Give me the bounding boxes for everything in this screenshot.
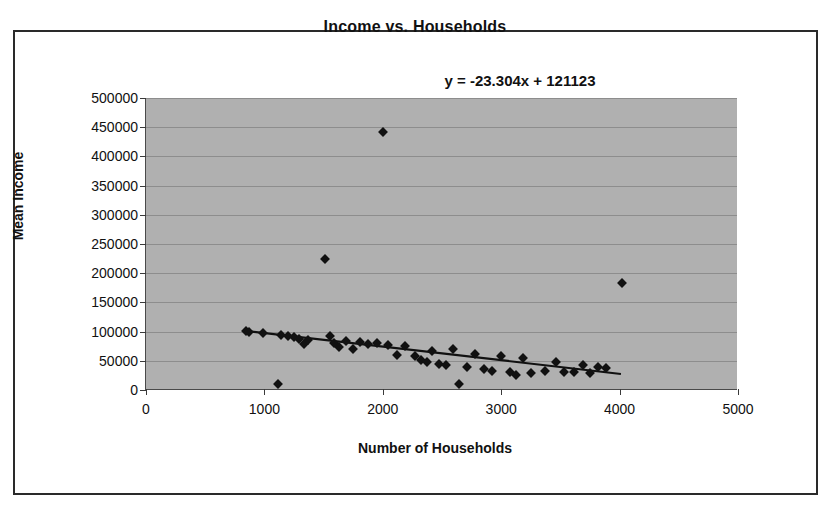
scatter-point xyxy=(487,366,497,376)
scatter-point xyxy=(479,364,489,374)
scatter-point xyxy=(601,363,611,373)
scatter-point xyxy=(578,360,588,370)
scatter-point xyxy=(383,340,393,350)
x-axis-title: Number of Households xyxy=(145,440,725,456)
y-tick-label: 100000 xyxy=(91,324,138,340)
y-tick-label: 0 xyxy=(130,382,138,398)
x-tick-label: 5000 xyxy=(722,401,753,417)
scatter-point xyxy=(372,338,382,348)
scatter-point xyxy=(341,336,351,346)
y-tick-label: 50000 xyxy=(99,353,138,369)
scatter-point xyxy=(401,341,411,351)
scatter-point xyxy=(454,379,464,389)
y-tick-label: 450000 xyxy=(91,119,138,135)
y-tick-label: 150000 xyxy=(91,294,138,310)
y-tick-label: 350000 xyxy=(91,178,138,194)
plot-wrap: 0500001000001500002000002500003000003500… xyxy=(145,98,737,390)
x-tick-mark xyxy=(738,389,739,395)
scatter-point xyxy=(427,347,437,357)
scatter-point xyxy=(462,362,472,372)
scatter-point xyxy=(585,368,595,378)
chart-title: Income vs. Households xyxy=(0,18,830,36)
scatter-point xyxy=(496,351,506,361)
scatter-point xyxy=(540,366,550,376)
scatter-point xyxy=(551,357,561,367)
scatter-point xyxy=(526,368,536,378)
x-tick-label: 1000 xyxy=(249,401,280,417)
y-tick-label: 500000 xyxy=(91,90,138,106)
scatter-point xyxy=(363,339,373,349)
scatter-point xyxy=(320,254,330,264)
x-tick-label: 4000 xyxy=(604,401,635,417)
scatter-point xyxy=(273,379,283,389)
scatter-point xyxy=(569,368,579,378)
scatter-points-layer xyxy=(145,98,737,390)
scatter-point xyxy=(378,128,388,138)
scatter-point xyxy=(258,328,268,338)
scatter-point xyxy=(559,367,569,377)
scatter-point xyxy=(348,344,358,354)
y-tick-label: 300000 xyxy=(91,207,138,223)
scatter-point xyxy=(448,344,458,354)
x-tick-label: 2000 xyxy=(367,401,398,417)
scatter-point xyxy=(470,349,480,359)
regression-equation-annotation: y = -23.304x + 121123 xyxy=(0,72,830,89)
scatter-point xyxy=(392,350,402,360)
y-axis-title: Mean Income xyxy=(10,116,26,276)
scatter-point xyxy=(518,354,528,364)
y-tick-label: 400000 xyxy=(91,148,138,164)
x-tick-label: 3000 xyxy=(486,401,517,417)
x-tick-label: 0 xyxy=(142,401,150,417)
y-tick-label: 200000 xyxy=(91,265,138,281)
scatter-point xyxy=(617,278,627,288)
y-tick-label: 250000 xyxy=(91,236,138,252)
